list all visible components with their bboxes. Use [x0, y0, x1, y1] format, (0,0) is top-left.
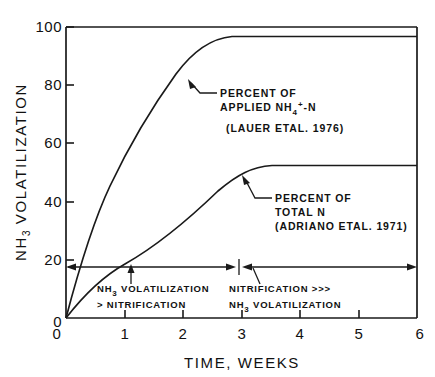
annotation-upper-curve-text: PERCENT OF APPLIED NH4+-N (LAUER ETAL. 1…	[220, 87, 344, 134]
x-tick-label-2: 2	[179, 325, 188, 342]
y-tick-label-20: 20	[44, 251, 62, 268]
x-axis-ticks	[125, 310, 359, 318]
upper-annot-line-2: APPLIED NH4+-N	[220, 100, 316, 117]
x-tick-label-0: 0	[53, 325, 62, 342]
right-region-line-2-post: VOLATILIZATION	[250, 299, 342, 310]
x-tick-label-3: 3	[238, 325, 247, 342]
lower-annot-line-3: (ADRIANO ETAL. 1971)	[275, 220, 408, 232]
leader-lower-curve	[245, 179, 272, 198]
y-axis-title-pre: NH	[12, 236, 29, 261]
upper-annot-line-2-post: -N	[304, 101, 317, 113]
lower-annot-line-1: PERCENT OF	[275, 192, 352, 204]
y-tick-label-40: 40	[44, 193, 62, 210]
y-tick-label-100: 100	[35, 18, 62, 35]
x-tick-label-1: 1	[121, 325, 130, 342]
region-arrowhead-right-end	[407, 264, 417, 271]
y-axis-ticks	[66, 27, 74, 260]
plot-frame	[66, 27, 417, 318]
right-region-line-1: NITRIFICATION >>>	[229, 283, 331, 294]
y-tick-label-80: 80	[44, 76, 62, 93]
left-region-line-1-pre: NH	[97, 283, 112, 294]
y-axis-title: NH3 VOLATILIZATION	[12, 83, 32, 261]
x-tick-label-6: 6	[416, 325, 425, 342]
annotation-right-region-text: NITRIFICATION >>> NH3 VOLATILIZATION	[229, 283, 341, 314]
left-region-line-1: NH3 VOLATILIZATION	[97, 283, 209, 298]
leader-upper-curve	[191, 83, 217, 93]
upper-annot-line-1: PERCENT OF	[220, 87, 297, 99]
upper-annot-line-3: (LAUER ETAL. 1976)	[226, 122, 344, 134]
leader-arrowhead-left-region	[128, 264, 135, 273]
x-axis-tick-labels: 0 1 2 3 4 5 6	[53, 325, 425, 342]
y-axis-title-post: VOLATILIZATION	[12, 83, 29, 230]
y-axis-tick-labels: 100 80 60 40 20 0	[35, 18, 62, 330]
x-tick-label-4: 4	[296, 325, 305, 342]
leader-right-region	[253, 268, 260, 284]
right-region-line-2-pre: NH	[229, 299, 244, 310]
left-region-line-2: > NITRIFICATION	[97, 299, 186, 310]
right-region-line-2: NH3 VOLATILIZATION	[229, 299, 341, 314]
region-arrowhead-left-start	[66, 264, 76, 271]
annotation-lower-curve-text: PERCENT OF TOTAL N (ADRIANO ETAL. 1971)	[275, 192, 408, 232]
left-region-line-1-post: VOLATILIZATION	[118, 283, 210, 294]
lower-annot-line-2: TOTAL N	[275, 206, 326, 218]
ammonia-volatilization-line-chart: 100 80 60 40 20 0 0 1 2 3 4 5 6 TIME, WE…	[0, 0, 435, 377]
y-tick-label-60: 60	[44, 134, 62, 151]
series-applied-nh4-n-curve	[66, 37, 417, 319]
region-arrowhead-left-end	[226, 264, 236, 271]
chart-figure: 100 80 60 40 20 0 0 1 2 3 4 5 6 TIME, WE…	[0, 0, 435, 377]
series-total-n-curve	[66, 166, 417, 319]
upper-annot-line-2-pre: APPLIED NH	[220, 101, 293, 113]
annotation-left-region-text: NH3 VOLATILIZATION > NITRIFICATION	[97, 283, 209, 310]
region-arrowhead-right-start	[242, 264, 252, 271]
region-span-group	[66, 259, 417, 275]
x-axis-title: TIME, WEEKS	[184, 354, 300, 371]
x-tick-label-5: 5	[355, 325, 364, 342]
leader-arrowhead-lower	[242, 175, 250, 185]
data-curves	[66, 37, 417, 319]
